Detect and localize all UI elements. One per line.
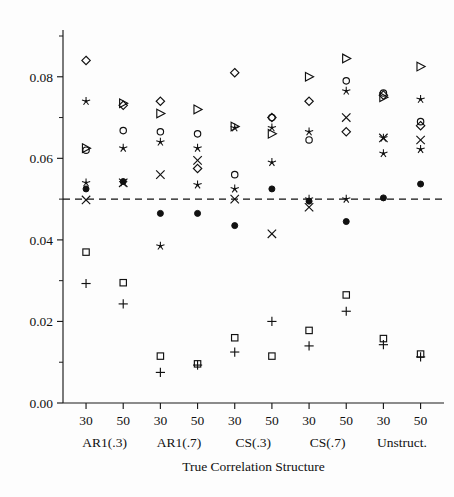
data-point-star <box>156 242 164 250</box>
x-tick-label: 50 <box>265 413 279 428</box>
data-point-square <box>269 353 275 359</box>
x-group-label: CS(.7) <box>310 435 346 450</box>
series-triangle <box>82 54 425 152</box>
data-point-dot <box>83 186 89 192</box>
data-point-circle <box>194 131 200 137</box>
data-point-triangle <box>305 72 313 81</box>
y-tick-label: 0.04 <box>29 233 53 248</box>
data-point-plus <box>230 347 239 356</box>
data-point-star <box>193 144 201 152</box>
data-point-plus <box>156 368 165 377</box>
data-point-dot <box>195 210 201 216</box>
x-group-label: Unstruct. <box>377 435 427 450</box>
data-point-dot <box>157 210 163 216</box>
data-point-square <box>120 280 126 286</box>
data-point-star <box>305 128 313 136</box>
data-point-square <box>157 353 163 359</box>
data-point-cross <box>342 113 350 121</box>
data-point-circle <box>232 171 238 177</box>
data-point-triangle <box>194 105 202 114</box>
x-tick-label: 50 <box>339 413 353 428</box>
data-point-star <box>379 149 387 157</box>
data-point-cross <box>193 156 201 164</box>
data-point-star <box>193 181 201 189</box>
data-point-star <box>231 185 239 193</box>
data-point-dot <box>418 181 424 187</box>
data-point-star <box>416 95 424 103</box>
data-point-star <box>342 87 350 95</box>
data-point-triangle <box>157 109 165 118</box>
data-point-plus <box>119 299 128 308</box>
data-point-dot <box>343 219 349 225</box>
data-point-triangle <box>417 62 425 71</box>
data-point-dot <box>269 186 275 192</box>
data-point-star <box>342 195 350 203</box>
data-point-square <box>306 327 312 333</box>
y-tick-label: 0.00 <box>29 396 53 411</box>
series-diamond <box>82 56 425 172</box>
data-point-star <box>82 97 90 105</box>
data-point-circle <box>120 127 126 133</box>
series-square <box>83 249 424 367</box>
data-point-plus <box>342 307 351 316</box>
data-point-cross <box>82 196 90 204</box>
data-point-plus <box>267 317 276 326</box>
data-point-cross <box>156 170 164 178</box>
data-point-diamond <box>342 128 350 136</box>
data-point-cross <box>416 136 424 144</box>
data-point-square <box>343 292 349 298</box>
x-tick-label: 50 <box>191 413 205 428</box>
data-point-circle <box>269 114 275 120</box>
data-point-star <box>82 179 90 187</box>
data-point-cross <box>268 230 276 238</box>
data-point-circle <box>157 129 163 135</box>
data-point-diamond <box>82 56 90 64</box>
data-point-star <box>119 144 127 152</box>
plot-canvas: 0.000.020.040.060.0830503050305030503050… <box>0 0 454 497</box>
series-star2 <box>82 145 425 249</box>
data-point-triangle <box>268 130 276 139</box>
x-group-label: AR1(.3) <box>82 435 127 450</box>
data-point-square <box>83 249 89 255</box>
x-axis-title: True Correlation Structure <box>182 459 325 474</box>
y-tick-label: 0.08 <box>29 70 53 85</box>
scatter-plot-figure: 0.000.020.040.060.0830503050305030503050… <box>0 0 454 497</box>
data-point-star <box>268 158 276 166</box>
data-point-square <box>232 335 238 341</box>
data-point-dot <box>232 223 238 229</box>
data-point-star <box>416 145 424 153</box>
data-point-star <box>156 138 164 146</box>
x-tick-label: 50 <box>414 413 428 428</box>
data-point-diamond <box>156 97 164 105</box>
series-star <box>82 87 425 152</box>
x-tick-label: 30 <box>228 413 242 428</box>
x-group-label: AR1(.7) <box>157 435 202 450</box>
data-point-circle <box>343 78 349 84</box>
series-cross <box>82 113 425 238</box>
y-tick-label: 0.06 <box>29 151 53 166</box>
data-point-diamond <box>231 69 239 77</box>
data-point-plus <box>81 279 90 288</box>
data-point-diamond <box>305 97 313 105</box>
x-tick-label: 50 <box>116 413 130 428</box>
y-tick-label: 0.02 <box>29 314 53 329</box>
x-tick-label: 30 <box>79 413 93 428</box>
data-point-diamond <box>193 164 201 172</box>
data-point-dot <box>380 195 386 201</box>
x-tick-label: 30 <box>302 413 316 428</box>
data-point-circle <box>306 137 312 143</box>
data-point-plus <box>304 341 313 350</box>
x-tick-label: 30 <box>154 413 168 428</box>
x-group-label: CS(.3) <box>235 435 271 450</box>
series-circle <box>83 78 424 178</box>
series-dot <box>83 179 424 229</box>
x-tick-label: 30 <box>377 413 391 428</box>
data-point-triangle <box>343 54 351 63</box>
series-plus <box>81 279 425 377</box>
